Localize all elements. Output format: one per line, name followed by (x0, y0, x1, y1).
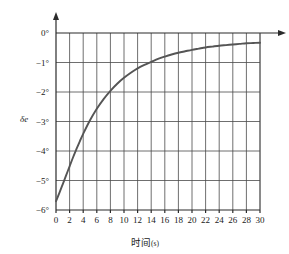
line-chart-canvas: 024681012141618202224262830 0°−1°−2°−3°−… (0, 0, 289, 254)
x-tick-label: 2 (67, 215, 72, 225)
chart-figure: 024681012141618202224262830 0°−1°−2°−3°−… (0, 0, 289, 254)
x-axis-tick-labels: 024681012141618202224262830 (54, 215, 265, 225)
y-tick-label: −4° (36, 146, 50, 156)
x-tick-label: 20 (188, 215, 198, 225)
x-tick-label: 8 (108, 215, 113, 225)
x-tick-label: 24 (215, 215, 225, 225)
y-tick-label: 0° (41, 28, 50, 38)
x-tick-label: 12 (133, 215, 142, 225)
x-axis-title-main: 时间 (131, 237, 151, 248)
y-tick-label: −5° (36, 176, 50, 186)
x-tick-label: 28 (242, 215, 252, 225)
y-tick-label: −6° (36, 205, 50, 215)
x-tick-label: 10 (120, 215, 130, 225)
x-tick-label: 30 (256, 215, 266, 225)
x-tick-label: 0 (54, 215, 59, 225)
x-tick-label: 6 (95, 215, 100, 225)
x-tick-label: 26 (228, 215, 238, 225)
y-axis-title: δe (20, 114, 28, 124)
x-tick-label: 14 (147, 215, 157, 225)
y-tick-label: −3° (36, 117, 50, 127)
x-axis-title: 时间(s) (131, 237, 159, 248)
x-tick-label: 4 (81, 215, 86, 225)
x-tick-label: 18 (174, 215, 184, 225)
y-tick-label: −1° (36, 58, 50, 68)
x-tick-label: 16 (160, 215, 170, 225)
y-tick-label: −2° (36, 87, 50, 97)
x-tick-label: 22 (201, 215, 210, 225)
x-axis-title-unit: (s) (151, 239, 159, 248)
